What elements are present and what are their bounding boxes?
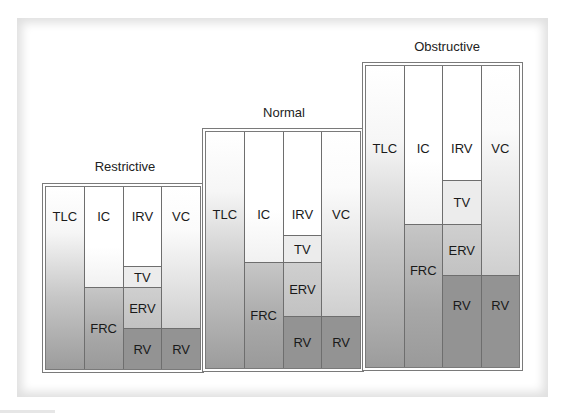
column-ic-frc: IC FRC [245,132,284,368]
label-vc: VC [162,209,200,224]
cell-frc: FRC [85,288,123,369]
cell-irv: IRV [443,66,481,181]
label-frc: FRC [245,308,283,323]
block-title-normal: Normal [204,105,364,121]
cell-vc: VC [482,66,520,276]
cell-rv: RV [124,329,162,369]
column-tlc: TLC [366,66,405,367]
column-tlc: TLC [206,132,245,368]
label-erv: ERV [443,243,481,258]
label-rv: RV [482,298,520,313]
cell-irv: IRV [124,187,162,267]
label-tv: TV [124,270,162,285]
cell-erv: ERV [284,263,322,317]
cell-rv: RV [284,317,322,368]
block-obstructive: TLC IC FRC IRV TV ERV RV [362,62,523,371]
cell-frc: FRC [245,263,283,368]
cell-tlc: TLC [366,66,404,367]
label-rv: RV [124,342,162,357]
column-ic-frc: IC FRC [405,66,444,367]
cell-ic: IC [405,66,443,225]
block-restrictive: TLC IC FRC IRV TV ERV RV [42,183,204,373]
cell-rv: RV [162,329,200,369]
label-irv: IRV [284,207,322,222]
label-erv: ERV [284,282,322,297]
cell-rv: RV [322,317,360,368]
block-normal: TLC IC FRC IRV TV ERV RV [202,128,364,372]
cell-tlc: TLC [46,187,84,369]
cell-frc: FRC [405,225,443,367]
label-ic: IC [405,141,443,156]
column-irv-tv-erv-rv: IRV TV ERV RV [284,132,323,368]
label-frc: FRC [85,321,123,336]
label-irv: IRV [443,141,481,156]
cell-vc: VC [162,187,200,329]
cell-vc: VC [322,132,360,317]
label-rv: RV [322,335,360,350]
cell-ic: IC [245,132,283,263]
cell-ic: IC [85,187,123,288]
column-irv-tv-erv-rv: IRV TV ERV RV [443,66,482,367]
label-rv: RV [162,342,200,357]
label-erv: ERV [124,301,162,316]
cell-rv: RV [482,276,520,367]
label-tv: TV [284,242,322,257]
label-vc: VC [322,207,360,222]
label-rv: RV [443,298,481,313]
label-frc: FRC [405,263,443,278]
column-vc-rv: VC RV [162,187,200,369]
column-tlc: TLC [46,187,85,369]
column-irv-tv-erv-rv: IRV TV ERV RV [124,187,163,369]
label-tlc: TLC [366,141,404,156]
label-tlc: TLC [206,207,244,222]
cell-erv: ERV [124,288,162,329]
column-vc-rv: VC RV [482,66,520,367]
label-rv: RV [284,335,322,350]
label-tv: TV [443,195,481,210]
cell-rv: RV [443,276,481,367]
column-vc-rv: VC RV [322,132,360,368]
column-ic-frc: IC FRC [85,187,124,369]
label-ic: IC [245,207,283,222]
cell-tv: TV [284,236,322,263]
label-ic: IC [85,209,123,224]
cell-tlc: TLC [206,132,244,368]
cell-tv: TV [124,267,162,288]
cell-erv: ERV [443,225,481,276]
label-tlc: TLC [46,209,84,224]
cell-irv: IRV [284,132,322,236]
block-title-obstructive: Obstructive [367,39,527,55]
block-title-restrictive: Restrictive [45,159,205,175]
label-vc: VC [482,141,520,156]
label-irv: IRV [124,209,162,224]
cell-tv: TV [443,181,481,225]
